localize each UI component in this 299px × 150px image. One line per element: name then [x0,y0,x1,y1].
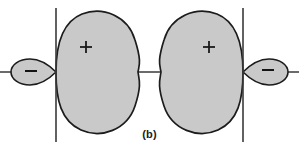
right-orbital-group [160,8,289,142]
figure-caption: (b) [0,128,299,140]
left-orbital-group [11,8,140,142]
right-major-lobe [160,11,244,133]
right-minor-lobe [243,59,288,85]
figure-container: (b) [0,0,299,150]
left-major-lobe [56,11,140,133]
